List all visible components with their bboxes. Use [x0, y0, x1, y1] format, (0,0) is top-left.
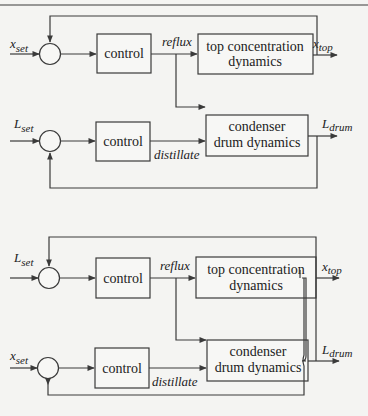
- output-label-2: Ldrum: [321, 116, 353, 133]
- output-label-3: xtop: [321, 259, 342, 276]
- summing-junction-3: [39, 268, 60, 289]
- setpoint-label-1: xset: [9, 36, 29, 54]
- process-label-3b: dynamics: [229, 278, 283, 293]
- summing-junction-4: [38, 358, 59, 379]
- summing-junction-2: [40, 131, 61, 152]
- signal-label-reflux: reflux: [162, 34, 192, 49]
- process-label-4b: drum dynamics: [215, 360, 302, 375]
- setpoint-label-3: Lset: [13, 250, 34, 268]
- controller-label-2: control: [103, 134, 143, 149]
- signal-label-reflux-2: reflux: [160, 258, 190, 273]
- diagram-bottom: Lset control reflux top concentration dy…: [9, 237, 353, 395]
- process-label-2a: condenser: [229, 119, 286, 134]
- control-diagram: xset control reflux top concentration dy…: [0, 0, 368, 416]
- process-label-2b: drum dynamics: [214, 135, 301, 150]
- output-label-4: Ldrum: [321, 342, 353, 359]
- summing-junction-1: [40, 44, 61, 65]
- output-label-1: xtop: [312, 36, 333, 53]
- process-label-4a: condenser: [230, 344, 287, 359]
- signal-label-distillate-2: distillate: [152, 374, 198, 389]
- controller-label-1: control: [104, 46, 144, 61]
- process-label-3a: top concentration: [207, 262, 305, 277]
- setpoint-label-2: Lset: [13, 116, 34, 134]
- setpoint-label-4: xset: [9, 348, 29, 366]
- process-label-1b: dynamics: [228, 54, 282, 69]
- signal-label-distillate: distillate: [154, 147, 200, 162]
- controller-label-4: control: [102, 361, 142, 376]
- process-label-1a: top concentration: [206, 39, 304, 54]
- controller-label-3: control: [103, 271, 143, 286]
- diagram-top: xset control reflux top concentration dy…: [9, 16, 353, 188]
